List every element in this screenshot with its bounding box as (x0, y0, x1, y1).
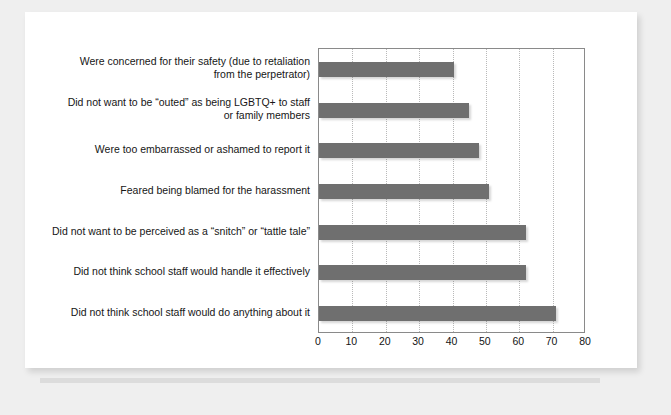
category-label-line: Feared being blamed for the harassment (45, 184, 310, 197)
bar (319, 143, 479, 158)
category-label-line: from the perpetrator) (45, 68, 310, 81)
category-label-line: Were too embarrassed or ashamed to repor… (45, 143, 310, 156)
x-tick-10: 10 (346, 335, 358, 347)
category-label-line: Did not want to be “outed” as being LGBT… (45, 96, 310, 109)
x-tick-0: 0 (315, 335, 321, 347)
bar (319, 103, 469, 118)
x-tick-80: 80 (579, 335, 591, 347)
chart-card: Were concerned for their safety (due to … (25, 12, 637, 368)
x-tick-30: 30 (412, 335, 424, 347)
bar (319, 184, 489, 199)
category-label: Did not want to be “outed” as being LGBT… (45, 96, 310, 122)
page-background: Were concerned for their safety (due to … (0, 0, 671, 415)
category-label: Were too embarrassed or ashamed to repor… (45, 143, 310, 156)
bar-row (319, 171, 584, 212)
footer-band (40, 378, 600, 383)
plot-area (318, 48, 585, 333)
x-tick-70: 70 (546, 335, 558, 347)
bar-row (319, 130, 584, 171)
category-label: Did not think school staff would handle … (45, 265, 310, 278)
bar (319, 225, 526, 240)
category-label: Did not want to be perceived as a “snitc… (45, 225, 310, 238)
x-tick-50: 50 (479, 335, 491, 347)
bar-row (319, 253, 584, 294)
category-label-line: Did not want to be perceived as a “snitc… (45, 225, 310, 238)
x-tick-20: 20 (379, 335, 391, 347)
bar (319, 265, 526, 280)
bar (319, 62, 454, 77)
x-axis-tick-labels: 01020304050607080 (318, 335, 585, 355)
bar (319, 306, 556, 321)
category-label-line: or family members (45, 109, 310, 122)
x-tick-40: 40 (446, 335, 458, 347)
category-label-line: Did not think school staff would do anyt… (45, 306, 310, 319)
category-axis-labels: Were concerned for their safety (due to … (45, 48, 310, 333)
x-tick-60: 60 (512, 335, 524, 347)
bar-row (319, 90, 584, 131)
bar-chart: Were concerned for their safety (due to … (25, 12, 637, 368)
bar-row (319, 293, 584, 334)
bar-row (319, 212, 584, 253)
category-label: Did not think school staff would do anyt… (45, 306, 310, 319)
category-label: Feared being blamed for the harassment (45, 184, 310, 197)
category-label: Were concerned for their safety (due to … (45, 55, 310, 81)
category-label-line: Did not think school staff would handle … (45, 265, 310, 278)
category-label-line: Were concerned for their safety (due to … (45, 55, 310, 68)
bar-row (319, 49, 584, 90)
